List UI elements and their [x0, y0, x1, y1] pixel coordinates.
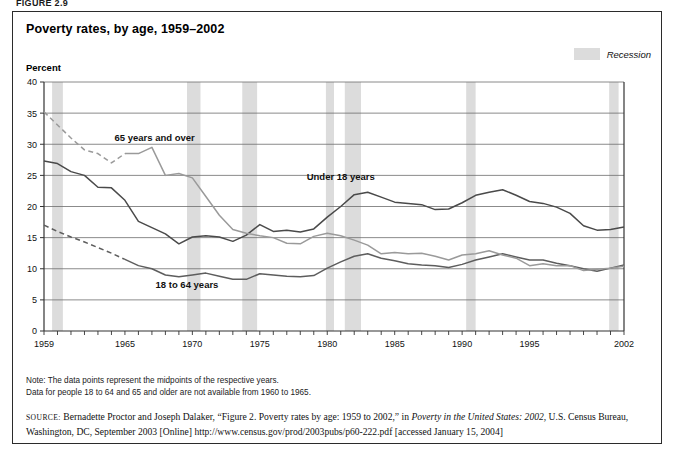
source-prefix: source: — [26, 413, 61, 422]
y-tick-label: 5 — [32, 295, 37, 305]
y-tick-label: 40 — [27, 77, 37, 87]
x-tick-label: 1990 — [452, 339, 472, 349]
y-tick-label: 20 — [27, 202, 37, 212]
y-axis-tick-labels-group: 0510152025303540 — [27, 77, 37, 336]
figure-caption: FIGURE 2.9 — [16, 0, 68, 8]
y-tick-label: 35 — [27, 109, 37, 119]
x-tick-label: 1965 — [115, 339, 135, 349]
annotation-18-to-64: 18 to 64 years — [156, 279, 219, 290]
x-tick-label: 1975 — [250, 339, 270, 349]
recession-legend-label: Recession — [607, 49, 651, 60]
y-tick-label: 10 — [27, 264, 37, 274]
recession-swatch-icon — [574, 48, 600, 60]
recession-legend: Recession — [574, 48, 651, 60]
x-tick-label: 1995 — [520, 339, 540, 349]
y-axis-title: Percent — [26, 62, 61, 73]
note-line-1: Note: The data points represent the midp… — [26, 376, 279, 385]
poverty-rates-line-chart: 0510152025303540 19591965197019751980198… — [26, 74, 650, 369]
y-tick-label: 15 — [27, 233, 37, 243]
x-axis-tick-labels-group: 195919651970197519801985199019952002 — [34, 339, 634, 349]
annotation-under-18: Under 18 years — [307, 171, 375, 182]
x-tick-label: 1959 — [34, 339, 54, 349]
note-line-2: Data for people 18 to 64 and 65 and olde… — [26, 388, 311, 397]
chart-plot-area: 0510152025303540 19591965197019751980198… — [26, 74, 650, 369]
x-tick-label: 2002 — [614, 339, 634, 349]
source-publication-title: Poverty in the United States: 2002 — [411, 411, 543, 422]
chart-title: Poverty rates, by age, 1959–2002 — [26, 22, 224, 36]
y-tick-label: 30 — [27, 140, 37, 150]
source-citation: source: Bernadette Proctor and Joseph Da… — [26, 410, 651, 438]
source-text-a: Bernadette Proctor and Joseph Dalaker, “… — [61, 411, 412, 422]
y-tick-label: 0 — [32, 326, 37, 336]
x-tick-label: 1970 — [182, 339, 202, 349]
annotation-65-and-over: 65 years and over — [114, 132, 195, 143]
x-tick-label: 1980 — [317, 339, 337, 349]
y-tick-label: 25 — [27, 171, 37, 181]
x-tick-label: 1985 — [385, 339, 405, 349]
